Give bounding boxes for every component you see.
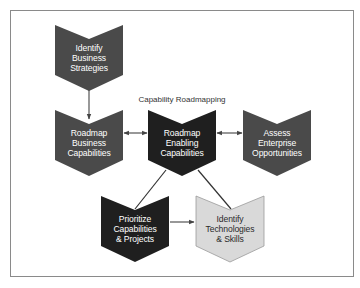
node-identify-technologies-skills: Identify Technologies & Skills bbox=[196, 214, 264, 244]
node-label-line: Capabilities bbox=[148, 148, 216, 158]
node-label-line: & Projects bbox=[101, 234, 169, 244]
node-label-line: Prioritize bbox=[101, 214, 169, 224]
node-roadmap-business-capabilities: Roadmap Business Capabilities bbox=[55, 128, 123, 158]
node-label-line: Capabilities bbox=[101, 224, 169, 234]
node-label-line: Identify bbox=[196, 214, 264, 224]
node-roadmap-enabling-capabilities: Roadmap Enabling Capabilities bbox=[148, 128, 216, 158]
node-identify-business-strategies: Identify Business Strategies bbox=[55, 43, 123, 73]
node-label-line: Assess bbox=[243, 128, 311, 138]
node-label-line: Opportunities bbox=[243, 148, 311, 158]
node-assess-enterprise-opportunities: Assess Enterprise Opportunities bbox=[243, 128, 311, 158]
node-label-line: Technologies bbox=[196, 224, 264, 234]
node-label-line: Business bbox=[55, 53, 123, 63]
node-label-line: Roadmap bbox=[148, 128, 216, 138]
node-prioritize-capabilities-projects: Prioritize Capabilities & Projects bbox=[101, 214, 169, 244]
node-label-line: Enabling bbox=[148, 138, 216, 148]
node-label-line: Strategies bbox=[55, 63, 123, 73]
node-label-line: Capabilities bbox=[55, 148, 123, 158]
node-label-line: Roadmap bbox=[55, 128, 123, 138]
node-label-line: Identify bbox=[55, 43, 123, 53]
node-label-line: & Skills bbox=[196, 234, 264, 244]
node-label-line: Enterprise bbox=[243, 138, 311, 148]
node-label-line: Business bbox=[55, 138, 123, 148]
diagram-title: Capability Roadmapping bbox=[132, 95, 232, 104]
